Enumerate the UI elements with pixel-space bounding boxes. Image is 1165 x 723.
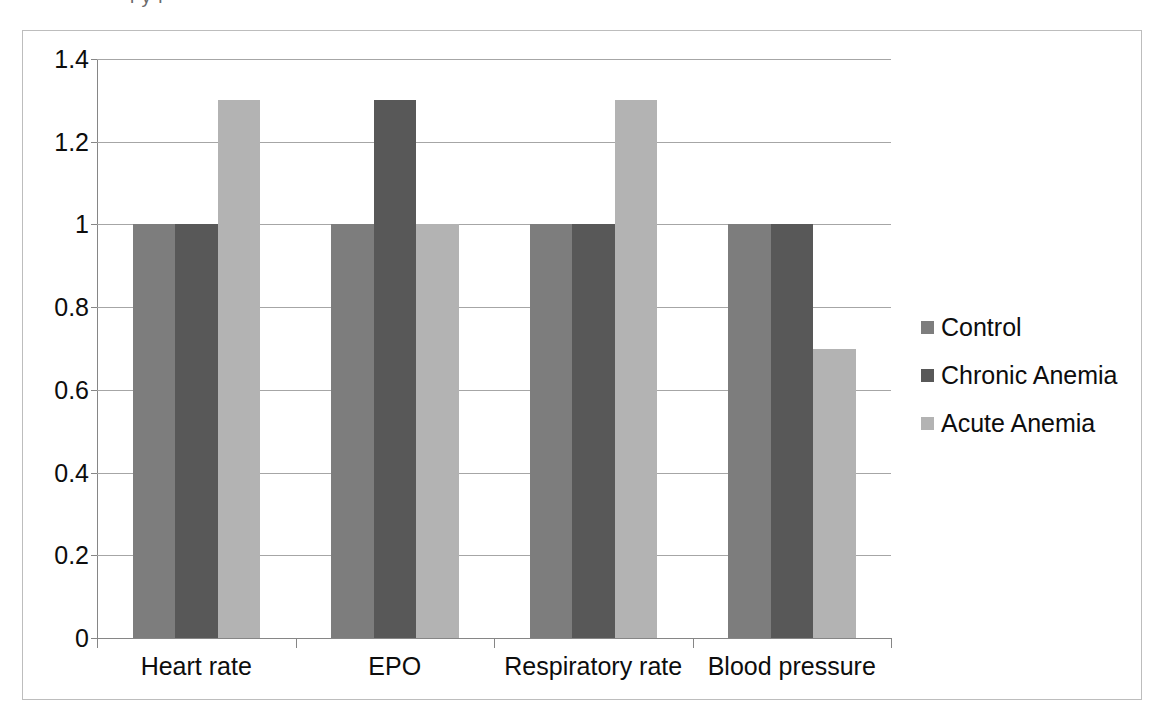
bar — [728, 224, 771, 638]
chart-frame: 1.41.210.80.60.40.20 Heart rateEPORespir… — [22, 30, 1142, 700]
x-axis-tick-label: Blood pressure — [693, 653, 892, 681]
legend-label: Acute Anemia — [941, 411, 1095, 436]
x-axis-tick-label: Respiratory rate — [494, 653, 693, 681]
bar — [218, 100, 261, 638]
cropped-text-remnant: l y l — [0, 0, 1165, 10]
bar — [416, 224, 459, 638]
legend-item[interactable]: Control — [921, 303, 1136, 351]
x-axis-tick-mark — [296, 639, 297, 648]
bar — [813, 349, 856, 639]
bar — [572, 224, 615, 638]
chart-legend: ControlChronic AnemiaAcute Anemia — [921, 303, 1136, 447]
y-axis-tick-label: 1.4 — [31, 47, 89, 72]
y-axis-tick-label: 0 — [31, 626, 89, 651]
legend-swatch-icon — [921, 321, 934, 334]
bar — [530, 224, 573, 638]
bar — [331, 224, 374, 638]
x-axis-tick-mark — [494, 639, 495, 648]
y-axis-tick-label: 1.2 — [31, 129, 89, 154]
legend-swatch-icon — [921, 369, 934, 382]
legend-swatch-icon — [921, 417, 934, 430]
legend-item[interactable]: Chronic Anemia — [921, 351, 1136, 399]
bar — [175, 224, 218, 638]
x-axis-tick-mark — [693, 639, 694, 648]
legend-item[interactable]: Acute Anemia — [921, 399, 1136, 447]
x-axis-tick-mark — [891, 639, 892, 648]
y-axis-tick-labels: 1.41.210.80.60.40.20 — [23, 59, 89, 639]
gridline — [97, 142, 891, 143]
y-axis-tick-label: 0.4 — [31, 460, 89, 485]
y-axis-tick-label: 0.8 — [31, 295, 89, 320]
bar — [771, 224, 814, 638]
bar — [615, 100, 658, 638]
y-axis-tick-label: 0.6 — [31, 377, 89, 402]
legend-label: Control — [941, 315, 1022, 340]
y-axis-tick-label: 1 — [31, 212, 89, 237]
y-axis-tick-label: 0.2 — [31, 543, 89, 568]
bar — [133, 224, 176, 638]
plot-area — [97, 59, 891, 638]
x-axis-tick-mark — [97, 639, 98, 648]
bar — [374, 100, 417, 638]
gridline — [97, 59, 891, 60]
x-axis-tick-label: EPO — [296, 653, 495, 681]
legend-label: Chronic Anemia — [941, 363, 1117, 388]
x-axis-tick-label: Heart rate — [97, 653, 296, 681]
